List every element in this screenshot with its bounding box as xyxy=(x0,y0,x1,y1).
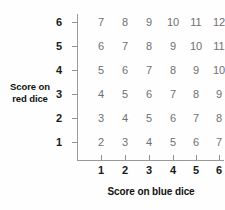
grid-cell: 7 xyxy=(187,113,205,124)
grid-cell: 6 xyxy=(187,137,205,148)
grid-cell: 8 xyxy=(187,89,205,100)
grid-cell: 11 xyxy=(187,17,205,28)
grid-cell: 8 xyxy=(164,65,182,76)
grid-cell: 9 xyxy=(210,89,225,100)
grid-cell: 5 xyxy=(116,89,134,100)
y-axis-tick-1 xyxy=(72,142,77,143)
x-axis-label-5: 5 xyxy=(188,165,204,176)
grid-cell: 3 xyxy=(92,113,110,124)
x-axis-title: Score on blue dice xyxy=(77,186,225,197)
y-axis-tick-4 xyxy=(72,70,77,71)
grid-cell: 8 xyxy=(210,113,225,124)
grid-cell: 10 xyxy=(210,65,225,76)
x-axis-tick-6 xyxy=(219,155,220,160)
x-axis-label-3: 3 xyxy=(141,165,157,176)
y-axis-label-2: 2 xyxy=(48,113,62,124)
dice-sum-sample-space-chart: 6 5 4 3 2 1 1 2 3 4 5 6 Score on red dic… xyxy=(0,0,225,210)
y-axis-title-line-2: red dice xyxy=(0,93,60,105)
grid-cell: 7 xyxy=(92,17,110,28)
grid-cell: 5 xyxy=(92,65,110,76)
y-axis-label-1: 1 xyxy=(48,137,62,148)
grid-cell: 5 xyxy=(140,113,158,124)
grid-cell: 9 xyxy=(140,17,158,28)
y-axis-title: Score on red dice xyxy=(0,81,60,104)
grid-cell: 8 xyxy=(116,17,134,28)
grid-cell: 7 xyxy=(164,89,182,100)
x-axis-tick-5 xyxy=(196,155,197,160)
grid-cell: 7 xyxy=(210,137,225,148)
grid-cell: 10 xyxy=(164,17,182,28)
grid-cell: 3 xyxy=(116,137,134,148)
y-axis-tick-5 xyxy=(72,46,77,47)
grid-cell: 8 xyxy=(140,41,158,52)
grid-cell: 6 xyxy=(92,41,110,52)
grid-cell: 6 xyxy=(140,89,158,100)
grid-cell: 6 xyxy=(164,113,182,124)
x-axis-line xyxy=(77,160,224,161)
x-axis-tick-2 xyxy=(125,155,126,160)
grid-cell: 4 xyxy=(140,137,158,148)
x-axis-label-1: 1 xyxy=(93,165,109,176)
y-axis-tick-6 xyxy=(72,22,77,23)
grid-cell: 10 xyxy=(187,41,205,52)
x-axis-tick-1 xyxy=(101,155,102,160)
y-axis-label-5: 5 xyxy=(48,41,62,52)
grid-cell: 2 xyxy=(92,137,110,148)
grid-cell: 9 xyxy=(164,41,182,52)
grid-cell: 11 xyxy=(210,41,225,52)
x-axis-label-6: 6 xyxy=(211,165,225,176)
x-axis-tick-3 xyxy=(149,155,150,160)
grid-cell: 4 xyxy=(116,113,134,124)
grid-cell: 7 xyxy=(116,41,134,52)
x-axis-label-2: 2 xyxy=(117,165,133,176)
grid-cell: 9 xyxy=(187,65,205,76)
y-axis-title-line-1: Score on xyxy=(0,81,60,93)
x-axis-label-4: 4 xyxy=(165,165,181,176)
y-axis-tick-2 xyxy=(72,118,77,119)
y-axis-tick-3 xyxy=(72,94,77,95)
grid-cell: 6 xyxy=(116,65,134,76)
grid-cell: 4 xyxy=(92,89,110,100)
grid-cell: 12 xyxy=(210,17,225,28)
x-axis-tick-4 xyxy=(173,155,174,160)
y-axis-line xyxy=(77,14,78,161)
grid-cell: 7 xyxy=(140,65,158,76)
y-axis-label-4: 4 xyxy=(48,65,62,76)
y-axis-label-6: 6 xyxy=(48,17,62,28)
grid-cell: 5 xyxy=(164,137,182,148)
